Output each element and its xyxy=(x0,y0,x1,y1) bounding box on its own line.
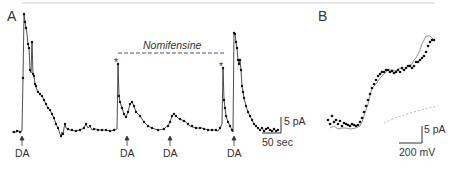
panel-a-trace xyxy=(12,13,279,137)
nomifensine-label: Nomifensine xyxy=(143,39,201,51)
panel-a-label: A xyxy=(7,8,16,24)
scale-a-x-label: 50 sec xyxy=(262,136,293,148)
panel-b-plot xyxy=(327,36,438,129)
da-label-3: DA xyxy=(163,147,178,159)
da-label-2: DA xyxy=(120,147,135,159)
da-label-1: DA xyxy=(15,147,30,159)
panel-b-label: B xyxy=(318,8,327,24)
scale-bar-b xyxy=(399,126,422,143)
asterisk-1: * xyxy=(114,56,118,68)
figure-canvas xyxy=(0,0,451,169)
scale-b-y-label: 5 pA xyxy=(424,123,446,135)
da-label-4: DA xyxy=(227,147,242,159)
asterisk-2: * xyxy=(219,60,223,72)
scale-b-x-label: 200 mV xyxy=(399,146,435,158)
da-arrows xyxy=(20,136,236,146)
scale-a-y-label: 5 pA xyxy=(284,115,306,127)
